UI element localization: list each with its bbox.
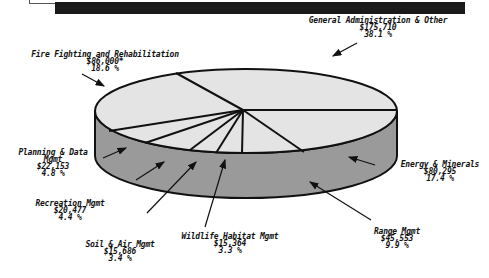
label-soil-air: Soil & Air Mgmt $15,686 3.4 % [75,241,165,262]
slice-percent: 4.4 % [25,214,115,221]
slice-percent: 9.9 % [362,242,432,249]
label-general-admin: General Administration & Other $175,710 … [293,17,463,38]
slice-percent: 4.8 % [8,170,98,177]
slice-percent: 3.4 % [75,255,165,262]
label-wildlife-habitat: Wildlife Habitat Mgmt $15,364 3.3 % [170,233,290,254]
label-energy-minerals: Energy & Minerals $80,295 17.4 % [393,161,487,182]
slice-percent: 38.1 % [293,31,463,38]
label-recreation: Recreation Mgmt $20,477 4.4 % [25,200,115,221]
slice-percent: 3.3 % [170,247,290,254]
slice-percent: 18.6 % [15,65,195,72]
slice-percent: 17.4 % [393,175,487,182]
label-planning-data: Planning & Data Mgmt $22,153 4.8 % [8,149,98,177]
label-range: Range Mgmt $45,553 9.9 % [362,228,432,249]
label-fire-fighting: Fire Fighting and Rehabilitation $86,000… [15,51,195,72]
